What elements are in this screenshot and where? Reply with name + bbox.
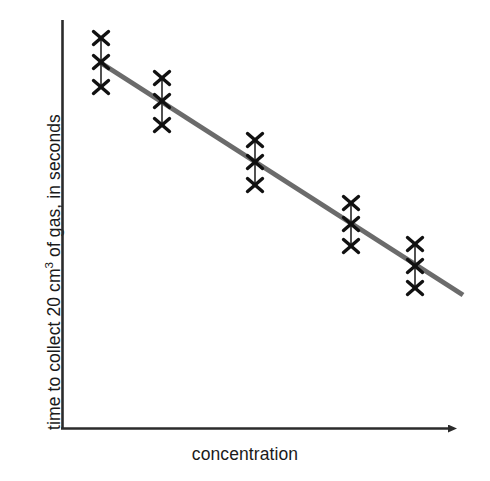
chart-figure: time to collect 20 cm3 of gas, in second… <box>0 0 490 481</box>
plot-area <box>0 0 490 481</box>
x-axis-label: concentration <box>0 444 490 465</box>
data-cluster-1 <box>94 32 109 94</box>
